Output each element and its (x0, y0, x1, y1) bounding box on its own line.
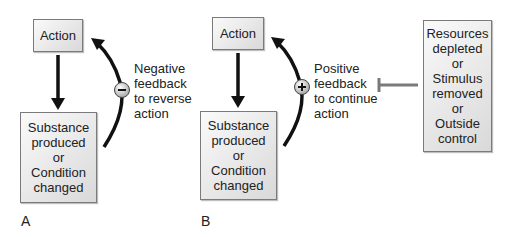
panel-label-b: B (201, 213, 210, 229)
panel-label-a: A (21, 213, 30, 229)
inhibitor-box: Resources depleted or Stimulus removed o… (423, 20, 492, 152)
substance-box-b-text: Substance produced or Condition changed (208, 118, 269, 193)
down-arrowhead-b (231, 96, 245, 108)
action-box-b: Action (212, 17, 264, 50)
substance-box-b: Substance produced or Condition changed (200, 111, 277, 200)
negative-feedback-label: Negative feedback to reverse action (134, 61, 192, 121)
positive-feedback-label: Positive feedback to continue action (314, 61, 378, 121)
action-box-b-text: Action (220, 26, 256, 41)
inhibitor-box-text: Resources depleted or Stimulus removed o… (426, 26, 488, 146)
action-box-a-text: Action (40, 28, 76, 43)
action-box-a: Action (33, 19, 83, 52)
substance-box-a-text: Substance produced or Condition changed (28, 120, 89, 195)
down-arrowhead-a (51, 98, 65, 110)
substance-box-a: Substance produced or Condition changed (20, 112, 97, 203)
